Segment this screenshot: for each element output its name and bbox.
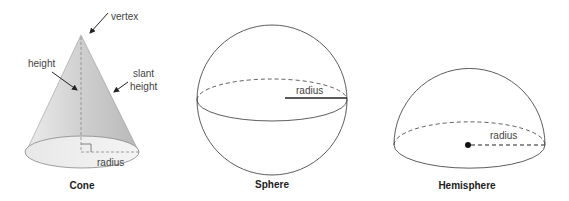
- sphere-equator-front: [197, 100, 347, 121]
- cone-radius-label: radius: [97, 157, 124, 168]
- hemisphere-caption: Hemisphere: [438, 180, 496, 191]
- cone-figure: vertex height slant height radius Cone: [25, 11, 157, 191]
- sphere-equator-back: [197, 79, 347, 100]
- hemisphere-dome: [394, 68, 545, 145]
- hemisphere-radius-label: radius: [490, 130, 517, 141]
- hemisphere-base-back: [394, 122, 545, 145]
- vertex-label: vertex: [111, 11, 138, 22]
- sphere-outline: [197, 25, 347, 175]
- sphere-figure: radius Sphere: [197, 25, 347, 190]
- slant-height-label: height: [130, 81, 157, 92]
- geometry-diagram: vertex height slant height radius Cone r…: [0, 0, 569, 201]
- vertex-arrow-icon: [90, 13, 108, 33]
- sphere-caption: Sphere: [255, 179, 289, 190]
- slant-height-arrow-icon: [114, 82, 128, 92]
- hemisphere-base-front: [394, 145, 545, 168]
- center-point-icon: [465, 142, 471, 148]
- height-label: height: [28, 58, 55, 69]
- hemisphere-figure: radius Hemisphere: [394, 68, 545, 191]
- sphere-radius-label: radius: [296, 85, 323, 96]
- slant-label: slant: [133, 68, 154, 79]
- cone-caption: Cone: [70, 180, 95, 191]
